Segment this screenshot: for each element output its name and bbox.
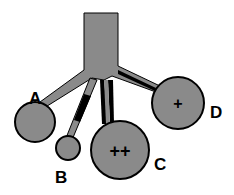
label-d: D [210, 103, 222, 122]
branching-diagram: ++ + A B C D [0, 0, 234, 195]
sign-d: + [173, 95, 182, 112]
label-c: C [154, 155, 166, 174]
circle-b [56, 136, 80, 160]
label-a: A [29, 89, 41, 108]
trunk [40, 13, 160, 108]
circle-a [15, 102, 55, 142]
sign-c: ++ [109, 141, 130, 161]
stalk-b-dark-band [74, 94, 91, 122]
label-b: B [55, 168, 67, 187]
